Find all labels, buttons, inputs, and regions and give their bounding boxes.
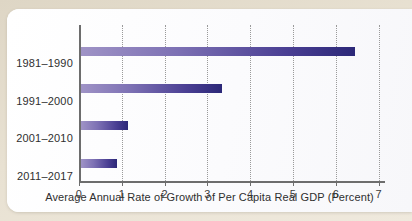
bar-1991-2000 (81, 84, 222, 93)
bar-2001-2010 (81, 121, 128, 130)
tickmark-6 (336, 181, 337, 186)
chart-card-surface: 1981–1990 1991–2000 2001–2010 2011–2017 (7, 9, 412, 212)
tickmark-0 (79, 181, 80, 186)
bar-1981-1990 (81, 47, 355, 56)
plot-area: 0 1 2 3 4 5 6 7 (79, 25, 393, 183)
category-label-1981-1990: 1981–1990 (16, 57, 73, 69)
category-axis-labels: 1981–1990 1991–2000 2001–2010 2011–2017 (7, 25, 73, 183)
tickmark-7 (379, 181, 380, 186)
category-label-1991-2000: 1991–2000 (16, 95, 73, 107)
tickmark-5 (293, 181, 294, 186)
bar-2011-2017 (81, 159, 117, 168)
tickmark-2 (165, 181, 166, 186)
tickmark-1 (122, 181, 123, 186)
category-label-2001-2010: 2001–2010 (16, 132, 73, 144)
x-axis-title: Average Annual Rate of Growth of Per Cap… (7, 191, 412, 203)
chart-card: 1981–1990 1991–2000 2001–2010 2011–2017 (7, 9, 412, 212)
gridline-7 (379, 25, 380, 181)
tickmark-3 (207, 181, 208, 186)
y-axis-line (79, 25, 81, 183)
category-label-2011-2017: 2011–2017 (17, 170, 73, 182)
screenshot-root: 1981–1990 1991–2000 2001–2010 2011–2017 (0, 0, 412, 221)
tickmark-4 (250, 181, 251, 186)
x-axis-line (79, 181, 385, 183)
